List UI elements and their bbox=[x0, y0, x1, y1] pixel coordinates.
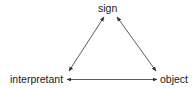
node-interpretant-label: interpretant bbox=[10, 74, 63, 85]
edge-sign-object bbox=[117, 17, 156, 71]
node-object-label: object bbox=[160, 74, 188, 85]
edge-sign-interpretant bbox=[69, 17, 104, 71]
node-sign-label: sign bbox=[98, 3, 117, 14]
